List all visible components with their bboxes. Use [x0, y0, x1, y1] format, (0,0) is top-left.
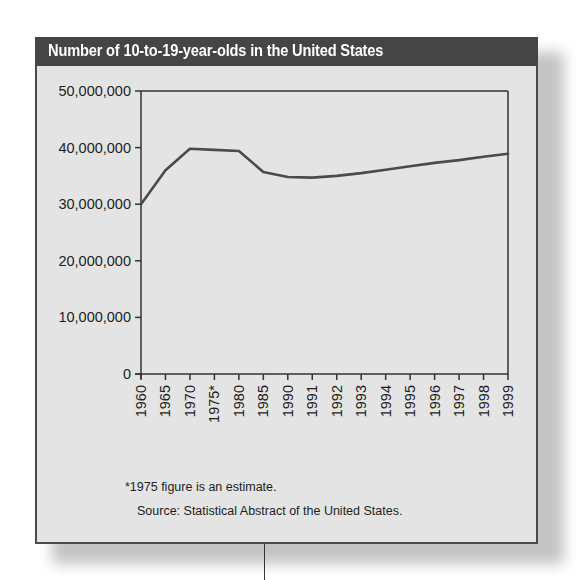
x-tick-label: 1998	[476, 385, 492, 417]
footnote: *1975 figure is an estimate.	[125, 480, 276, 494]
line-chart: 010,000,00020,000,00030,000,00040,000,00…	[0, 0, 581, 580]
x-tick-label: 1980	[231, 385, 247, 417]
y-tick-label: 30,000,000	[58, 196, 131, 212]
x-tick-label: 1970	[182, 385, 198, 417]
x-tick-label: 1994	[378, 385, 394, 417]
x-tick-label: 1965	[157, 385, 173, 417]
source-note: Source: Statistical Abstract of the Unit…	[137, 504, 402, 518]
data-line	[141, 149, 508, 205]
x-tick-label: 1999	[500, 385, 516, 417]
x-tick-label: 1985	[255, 385, 271, 417]
y-tick-label: 10,000,000	[58, 309, 131, 325]
x-tick-label: 1960	[133, 385, 149, 417]
x-tick-label: 1995	[402, 385, 418, 417]
y-tick-label: 0	[123, 366, 131, 382]
x-tick-label: 1997	[451, 385, 467, 417]
y-tick-label: 50,000,000	[58, 83, 131, 99]
x-tick-label: 1996	[427, 385, 443, 417]
connector-line	[264, 544, 265, 580]
x-tick-label: 1992	[329, 385, 345, 417]
y-tick-label: 20,000,000	[58, 253, 131, 269]
x-tick-label: 1975*	[206, 385, 222, 423]
x-tick-label: 1991	[304, 385, 320, 417]
x-tick-label: 1990	[280, 385, 296, 417]
y-tick-label: 40,000,000	[58, 140, 131, 156]
x-tick-label: 1993	[353, 385, 369, 417]
